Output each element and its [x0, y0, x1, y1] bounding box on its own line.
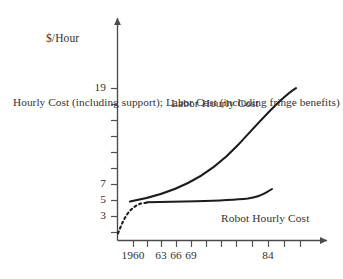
- y-axis-title: $/Hour: [46, 32, 79, 46]
- chart-figure: $/Hour Hourly Cost (including support); …: [0, 0, 343, 279]
- series-label-robot-hourly-cost: Robot Hourly Cost: [221, 212, 309, 225]
- y-axis-tick-label-5: 5: [80, 193, 106, 205]
- series-line-robot-hourly-cost-solid: [147, 189, 272, 202]
- series-label-labor-hourly-cost: Labor Hourly Cost: [171, 97, 259, 110]
- y-axis-tick-label-3: 3: [80, 209, 106, 221]
- x-axis-tick-label-84: 84: [251, 249, 285, 261]
- y-axis-tick-label-7: 7: [80, 177, 106, 189]
- series-line-robot-hourly-cost-dashed: [118, 203, 149, 234]
- y-axis-ticks: [111, 89, 118, 233]
- chart-side-note: Hourly Cost (including support); Labor C…: [13, 96, 113, 110]
- x-axis-tick-label-69: 69: [174, 249, 208, 261]
- y-axis-tick-label-19: 19: [80, 81, 106, 93]
- x-axis-ticks: [134, 241, 301, 248]
